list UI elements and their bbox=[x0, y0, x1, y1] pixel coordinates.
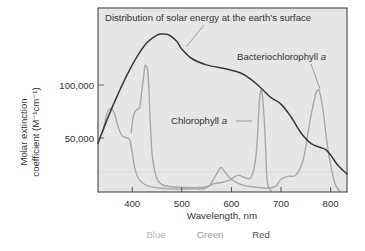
y-tick-label: 50,000 bbox=[65, 133, 94, 144]
x-tick-label: 400 bbox=[124, 198, 140, 209]
y-axis: 50,000100,000 bbox=[59, 80, 104, 144]
chl-annotation-italic: a bbox=[222, 115, 227, 126]
x-tick-label: 600 bbox=[223, 198, 239, 209]
x-axis-title: Wavelength, nm bbox=[187, 210, 257, 221]
band-label-green: Green bbox=[197, 229, 224, 240]
bchl-annotation-italic: a bbox=[321, 51, 326, 62]
band-label-red: Red bbox=[252, 229, 270, 240]
solar-annotation: Distribution of solar energy at the eart… bbox=[105, 12, 311, 23]
x-tick-label: 800 bbox=[323, 198, 339, 209]
bacteriochlorophyll-annotation: Bacteriochlorophyll a bbox=[237, 51, 326, 62]
plot-area bbox=[98, 8, 347, 192]
bchl-annotation-main: Bacteriochlorophyll bbox=[237, 51, 321, 62]
chlorophyll-annotation: Chlorophyll a bbox=[171, 115, 227, 126]
color-band-labels: BlueGreenRed bbox=[146, 229, 269, 240]
x-tick-label: 700 bbox=[273, 198, 289, 209]
chl-annotation-main: Chlorophyll bbox=[171, 115, 222, 126]
y-axis-title-line2: coefficient (M⁻¹cm⁻¹) bbox=[30, 87, 41, 176]
y-axis-title-line1: Molar extinction bbox=[18, 98, 29, 165]
y-axis-title: Molar extinction coefficient (M⁻¹cm⁻¹) bbox=[18, 87, 41, 176]
x-tick-label: 500 bbox=[174, 198, 190, 209]
absorption-spectrum-chart: 400500600700800 50,000100,000 Distributi… bbox=[0, 0, 365, 251]
y-tick-label: 100,000 bbox=[59, 80, 94, 91]
band-label-blue: Blue bbox=[146, 229, 165, 240]
